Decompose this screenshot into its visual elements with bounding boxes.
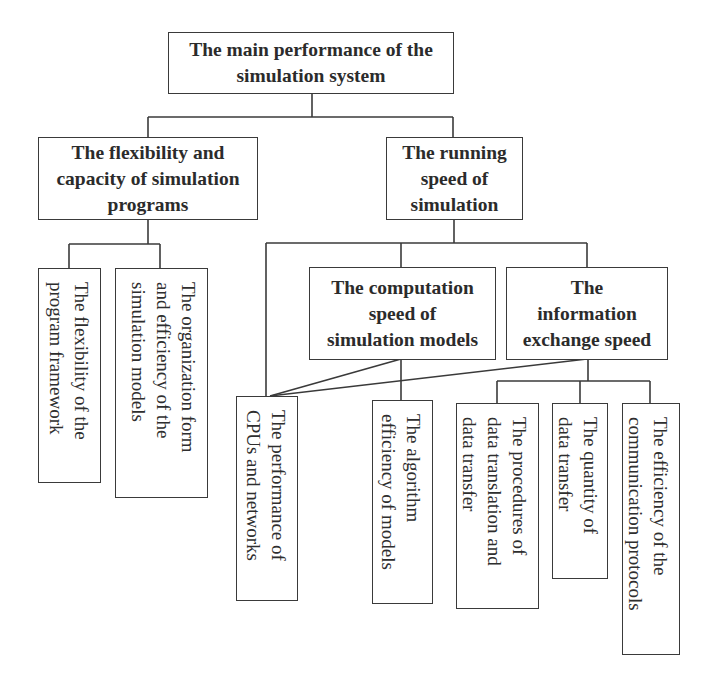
leaf-algorithm-efficiency: The algorithm efficiency of models <box>372 400 433 604</box>
node-label-line: information <box>523 301 651 327</box>
leaf-label: The flexibility of the program framework <box>44 269 100 440</box>
node-label-line: simulation <box>402 192 507 218</box>
node-label-line: exchange speed <box>523 327 651 353</box>
node-information-exchange-speed: The information exchange speed <box>506 267 668 360</box>
node-label-line: speed of <box>327 301 478 327</box>
node-label-line: The <box>523 275 651 301</box>
node-label-line: The computation <box>327 275 478 301</box>
node-root-main-performance: The main performance of the simulation s… <box>168 32 454 94</box>
leaf-translation-transfer-procedures: The procedures of data translation and d… <box>456 403 539 609</box>
node-flexibility-capacity: The flexibility and capacity of simulati… <box>38 137 258 220</box>
leaf-label: The procedures of data translation and d… <box>457 404 538 566</box>
node-label-line: speed of <box>402 166 507 192</box>
diagram-canvas: The main performance of the simulation s… <box>0 0 720 683</box>
leaf-label: The algorithm efficiency of models <box>376 401 432 570</box>
node-computation-speed: The computation speed of simulation mode… <box>309 267 496 360</box>
leaf-label: The organization form and efficiency of … <box>126 269 207 453</box>
leaf-label: The quantity of data transfer <box>553 404 609 534</box>
leaf-protocol-efficiency: The efficiency of the communication prot… <box>622 403 680 655</box>
leaf-organization-form-efficiency: The organization form and efficiency of … <box>115 268 208 498</box>
node-running-speed: The running speed of simulation <box>386 137 523 220</box>
leaf-label: The performance of CPUs and networks <box>241 397 297 561</box>
node-label-line: The flexibility and <box>56 140 239 166</box>
leaf-cpu-network-performance: The performance of CPUs and networks <box>236 396 298 601</box>
node-label-line: simulation models <box>327 327 478 353</box>
leaf-label: The efficiency of the communication prot… <box>623 404 679 611</box>
node-label-line: capacity of simulation <box>56 166 239 192</box>
node-label-line: The running <box>402 140 507 166</box>
node-label-line: The main performance of the <box>189 37 433 63</box>
leaf-program-framework-flexibility: The flexibility of the program framework <box>38 268 101 483</box>
connector-info-to-cpu <box>270 359 587 396</box>
node-label-line: programs <box>56 192 239 218</box>
leaf-data-transfer-quantity: The quantity of data transfer <box>552 403 608 579</box>
node-label-line: simulation system <box>189 63 433 89</box>
connector-computation-to-cpu <box>270 359 401 396</box>
